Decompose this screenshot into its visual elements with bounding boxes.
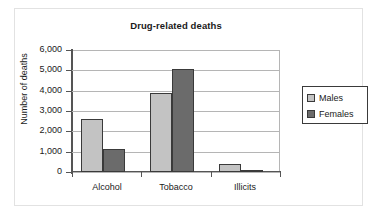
bar-illicits-females	[241, 170, 263, 172]
y-tick-mark	[66, 50, 72, 51]
legend-item-females[interactable]: Females	[307, 109, 354, 119]
y-tick-mark	[66, 111, 72, 112]
x-tick-mark	[72, 172, 73, 177]
x-tick-mark	[211, 172, 212, 177]
y-tick-mark	[66, 131, 72, 132]
legend-swatch-icon	[307, 94, 315, 102]
chart-title: Drug-related deaths	[72, 20, 280, 31]
x-tick-label: Alcohol	[67, 182, 147, 192]
bar-tobacco-males	[150, 93, 172, 172]
bar-alcohol-females	[103, 149, 125, 172]
x-tick-mark	[141, 172, 142, 177]
y-tick-mark	[66, 152, 72, 153]
legend-item-males[interactable]: Males	[307, 93, 343, 103]
y-tick-label: 0	[20, 166, 62, 176]
legend-label: Males	[319, 93, 343, 103]
y-tick-label: 1,000	[20, 146, 62, 156]
y-tick-label: 3,000	[20, 105, 62, 115]
y-tick-mark	[66, 91, 72, 92]
chart-container: Drug-related deaths Number of deaths 6,0…	[0, 0, 377, 215]
chart-legend: MalesFemales	[302, 86, 368, 124]
legend-swatch-icon	[307, 110, 315, 118]
x-tick-label: Tobacco	[136, 182, 216, 192]
gridline	[72, 172, 280, 173]
bar-alcohol-males	[81, 119, 103, 172]
y-tick-mark	[66, 70, 72, 71]
y-tick-label: 6,000	[20, 44, 62, 54]
y-tick-label: 5,000	[20, 64, 62, 74]
bar-tobacco-females	[172, 69, 194, 172]
legend-label: Females	[319, 109, 354, 119]
y-tick-label: 2,000	[20, 125, 62, 135]
x-tick-label: Illicits	[205, 182, 285, 192]
y-tick-label: 4,000	[20, 85, 62, 95]
x-tick-mark	[280, 172, 281, 177]
bar-illicits-males	[219, 164, 241, 172]
